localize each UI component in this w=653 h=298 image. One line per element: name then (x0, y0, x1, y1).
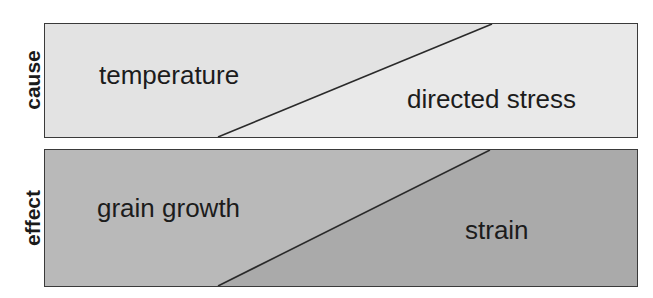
region-label-temperature: temperature (99, 60, 239, 91)
region-label-grain-growth: grain growth (97, 193, 240, 224)
effect-panel: grain growth strain (44, 149, 638, 287)
row-label-cause: cause (21, 50, 45, 110)
region-label-directed-stress: directed stress (407, 84, 576, 115)
cause-panel: temperature directed stress (44, 23, 638, 138)
row-label-effect: effect (21, 190, 45, 246)
region-label-strain: strain (465, 215, 529, 246)
